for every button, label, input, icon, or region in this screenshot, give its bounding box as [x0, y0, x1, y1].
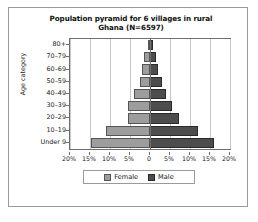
legend-label-male: Male	[158, 173, 174, 181]
legend-swatch-female	[104, 174, 111, 181]
zero-axis-line	[150, 39, 151, 149]
bar-female-50-59	[140, 77, 150, 87]
chart-legend: Female Male	[83, 170, 195, 184]
bar-female-60-69	[142, 64, 150, 74]
x-tick-label: 20%	[222, 155, 236, 162]
y-tick-label: 10–19	[47, 126, 66, 134]
bar-female-40-49	[134, 89, 150, 99]
plot-area	[69, 38, 231, 150]
x-tick-label: 5%	[164, 155, 174, 162]
y-axis-labels: Under 910–1920–2930–3940–4950–5960–6970–…	[9, 38, 66, 150]
chart-title-line-2: Ghana (N=6597)	[39, 23, 223, 32]
x-axis-labels: 20%15%10%5%05%10%15%20%	[69, 152, 231, 164]
bar-female-30-39	[128, 101, 150, 111]
y-tick-label: 40–49	[47, 89, 66, 97]
y-tick-label: 30–39	[47, 101, 66, 109]
legend-swatch-male	[148, 174, 155, 181]
y-tick-label: 60–69	[47, 65, 66, 73]
legend-item-male: Male	[148, 173, 174, 181]
y-tick-label: Under 9	[41, 138, 66, 146]
chart-title: Population pyramid for 6 villages in rur…	[39, 14, 223, 32]
bar-male-20-29	[150, 113, 179, 123]
bar-female-under-9	[91, 138, 150, 148]
legend-label-female: Female	[114, 173, 138, 181]
chart-title-line-1: Population pyramid for 6 villages in rur…	[39, 14, 223, 23]
x-tick-label: 15%	[202, 155, 216, 162]
bar-female-10-19	[106, 126, 150, 136]
x-tick-label: 10%	[102, 155, 116, 162]
bar-male-40-49	[150, 89, 166, 99]
x-tick-label: 20%	[62, 155, 76, 162]
y-tick-label: 20–29	[47, 113, 66, 121]
bar-female-20-29	[128, 113, 150, 123]
y-tick-label: 50–59	[47, 77, 66, 85]
y-tick-label: 70–79	[47, 52, 66, 60]
x-tick-label: 0	[147, 155, 151, 162]
bar-male-60-69	[150, 64, 158, 74]
x-tick-label: 15%	[82, 155, 96, 162]
bar-male-under-9	[150, 138, 214, 148]
legend-item-female: Female	[104, 173, 138, 181]
bar-male-50-59	[150, 77, 162, 87]
bar-male-10-19	[150, 126, 198, 136]
bar-male-30-39	[150, 101, 172, 111]
x-tick-label: 10%	[182, 155, 196, 162]
x-tick-label: 5%	[124, 155, 134, 162]
gridline-20%	[230, 39, 231, 149]
y-tick-label: 80+	[53, 40, 67, 48]
chart-frame: Population pyramid for 6 villages in rur…	[8, 7, 248, 207]
